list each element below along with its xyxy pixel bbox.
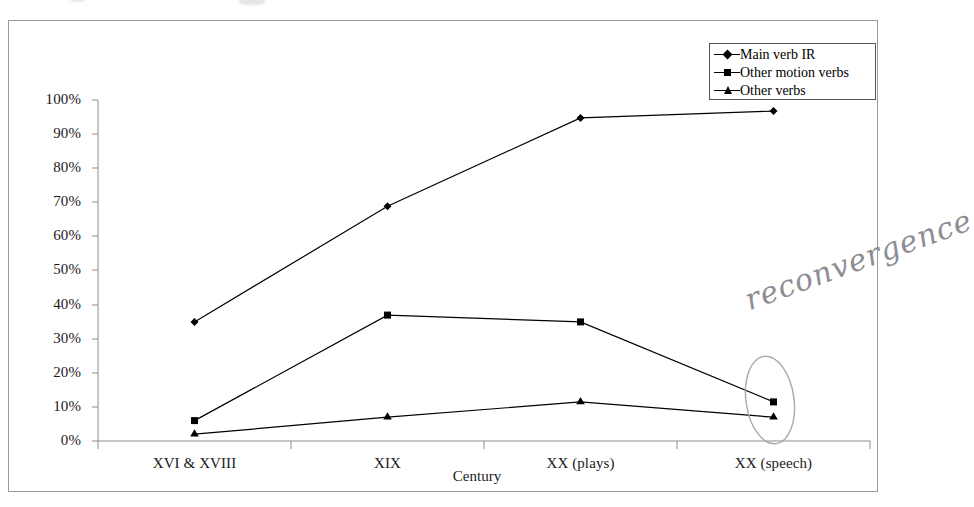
marker-square <box>191 417 198 424</box>
marker-square <box>577 318 584 325</box>
marker-triangle <box>576 397 585 404</box>
x-axis-ticks <box>98 441 870 449</box>
series-other-motion-verbs <box>191 312 777 425</box>
scan-artifact <box>70 0 86 2</box>
legend-item-other-motion-verbs[interactable]: Other motion verbs <box>710 64 875 82</box>
marker-square <box>384 312 391 319</box>
marker-diamond <box>577 114 585 122</box>
marker-diamond <box>770 107 778 115</box>
chart-legend: Main verb IR Other motion verbs Other ve… <box>709 43 876 100</box>
y-tick-label: 30% <box>19 331 81 346</box>
legend-label: Other motion verbs <box>740 65 849 81</box>
legend-marker-diamond-icon <box>714 48 740 62</box>
y-tick-label: 10% <box>19 399 81 414</box>
scan-artifact <box>238 0 266 5</box>
y-tick-label: 40% <box>19 297 81 312</box>
series-other-verbs <box>190 397 778 437</box>
legend-item-other-verbs[interactable]: Other verbs <box>710 82 875 100</box>
y-tick-label: 80% <box>19 160 81 175</box>
marker-square <box>770 398 777 405</box>
legend-label: Other verbs <box>740 83 806 99</box>
y-tick-label: 20% <box>19 365 81 380</box>
y-tick-label: 0% <box>19 433 81 448</box>
legend-label: Main verb IR <box>740 47 815 63</box>
marker-triangle <box>383 412 392 419</box>
y-tick-label: 90% <box>19 126 81 141</box>
marker-diamond <box>384 202 392 210</box>
series-main-verb-ir <box>191 107 778 326</box>
legend-marker-square-icon <box>714 66 740 80</box>
y-axis-ticks <box>92 100 98 441</box>
chart-plot-frame: 100% 90% 80% 70% 60% 50% 40% 30% 20% 10%… <box>8 20 878 492</box>
legend-marker-triangle-icon <box>714 84 740 98</box>
marker-triangle <box>769 412 778 419</box>
y-tick-label: 50% <box>19 262 81 277</box>
legend-item-main-verb-ir[interactable]: Main verb IR <box>710 46 875 64</box>
marker-triangle <box>190 429 199 436</box>
x-axis-title: Century <box>0 468 954 485</box>
y-tick-label: 70% <box>19 194 81 209</box>
y-tick-label: 60% <box>19 228 81 243</box>
marker-diamond <box>191 318 199 326</box>
y-tick-label: 100% <box>19 92 81 107</box>
